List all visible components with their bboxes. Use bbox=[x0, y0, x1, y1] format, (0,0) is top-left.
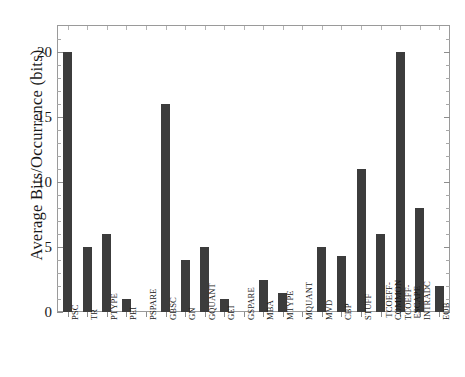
x-tick-mark bbox=[107, 312, 108, 317]
x-tick-label-text: PSPARE bbox=[149, 289, 158, 320]
x-tick-mark bbox=[205, 312, 206, 317]
x-tick-label-text: INTRADC bbox=[423, 281, 432, 320]
y-tick-label: 10 bbox=[18, 175, 52, 190]
x-tick-label-text: PTYPE bbox=[110, 293, 119, 320]
x-tick-label-text: PSC bbox=[71, 304, 80, 320]
x-tick-mark bbox=[244, 312, 245, 317]
x-tick-label-text: EOB bbox=[442, 303, 451, 321]
x-tick-label-text: TR bbox=[90, 309, 99, 320]
x-tick-label-text: MVD bbox=[325, 300, 334, 320]
x-tick-mark bbox=[283, 312, 284, 317]
x-tick-label-text: CBP bbox=[344, 303, 353, 320]
x-tick-mark bbox=[87, 312, 88, 317]
y-tick-mark bbox=[57, 312, 63, 313]
x-tick-mark bbox=[361, 312, 362, 317]
x-tick-label-text: MQUANT bbox=[305, 282, 314, 320]
x-tick-mark bbox=[126, 312, 127, 317]
bar-chart-figure: Average Bits/Occurrence (bits) 05101520 … bbox=[0, 0, 465, 377]
x-tick-mark bbox=[146, 312, 147, 317]
bar[interactable] bbox=[357, 169, 366, 312]
x-tick-mark bbox=[341, 312, 342, 317]
x-tick-mark bbox=[381, 312, 382, 317]
y-tick-label: 0 bbox=[18, 305, 52, 320]
x-tick-label-text: STUFF bbox=[364, 294, 373, 320]
x-tick-label-text: GSPARE bbox=[247, 287, 256, 320]
bar[interactable] bbox=[63, 52, 72, 312]
y-tick-label: 20 bbox=[18, 45, 52, 60]
x-tick-label-text: GN bbox=[188, 307, 197, 320]
bar[interactable] bbox=[83, 247, 92, 312]
x-tick-label-text: PEI bbox=[129, 307, 138, 320]
x-tick-mark bbox=[439, 312, 440, 317]
bars-layer bbox=[58, 26, 449, 312]
x-tick-label-text: MBA bbox=[266, 300, 275, 320]
x-tick-mark bbox=[263, 312, 264, 317]
x-tick-mark bbox=[166, 312, 167, 317]
x-tick-mark bbox=[224, 312, 225, 317]
x-tick-label-text: TCOEFF- COMMON bbox=[385, 280, 402, 320]
x-tick-mark bbox=[322, 312, 323, 317]
x-tick-label-text: TCOEFF- ESCAPE bbox=[404, 284, 421, 320]
y-tick-label: 15 bbox=[18, 110, 52, 125]
x-tick-label-text: GBSC bbox=[169, 297, 178, 320]
x-tick-mark bbox=[68, 312, 69, 317]
x-tick-mark bbox=[185, 312, 186, 317]
bar[interactable] bbox=[396, 52, 405, 312]
bar[interactable] bbox=[181, 260, 190, 312]
y-tick-label: 5 bbox=[18, 240, 52, 255]
x-tick-mark bbox=[302, 312, 303, 317]
bar[interactable] bbox=[161, 104, 170, 312]
x-tick-label-text: MTYPE bbox=[286, 290, 295, 320]
x-tick-label-text: GEI bbox=[227, 305, 236, 320]
x-tick-label-text: GQUANT bbox=[208, 283, 217, 320]
